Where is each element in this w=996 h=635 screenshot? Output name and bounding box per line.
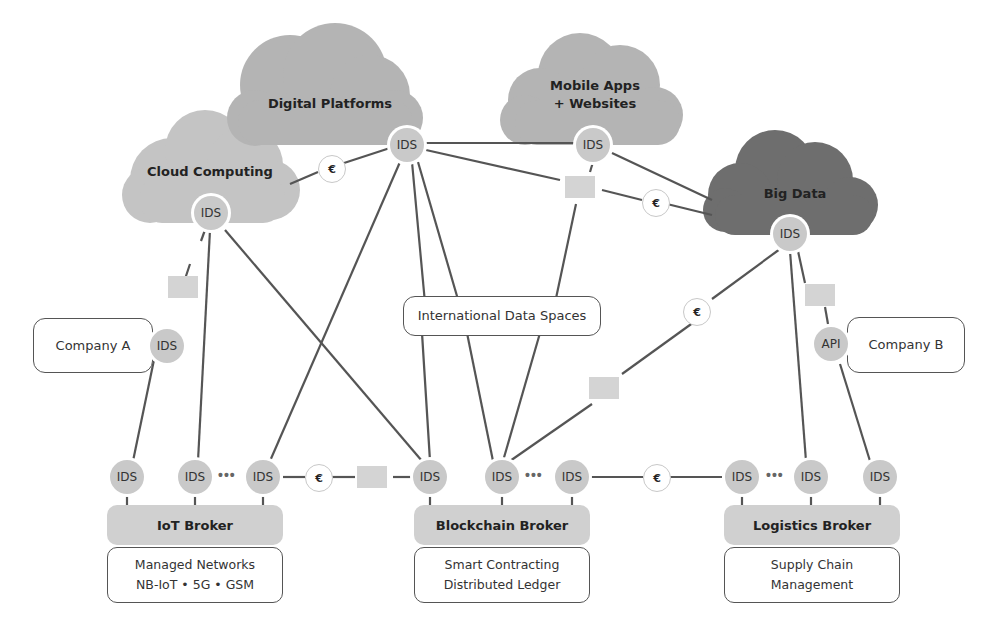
api-node-company-b: API — [814, 327, 848, 361]
iot-desc-line1: Managed Networks — [135, 555, 255, 575]
ids-node-blockchain-3: IDS — [555, 460, 589, 494]
euro-icon-blockchain-logistics: € — [643, 464, 671, 492]
company-b-box: Company B — [847, 317, 965, 373]
logistics-broker-description: Supply Chain Management — [724, 547, 900, 603]
blockchain-broker-description: Smart Contracting Distributed Ledger — [414, 547, 590, 603]
ids-node-logistics-2: IDS — [794, 460, 828, 494]
data-packet-icon — [168, 276, 198, 298]
ids-node-logistics-1: IDS — [725, 460, 759, 494]
ids-node-cloud-computing: IDS — [194, 196, 228, 230]
ellipsis-logistics: ••• — [766, 467, 784, 483]
big-data-label: Big Data — [740, 185, 850, 203]
blockchain-broker: Blockchain Broker — [414, 505, 590, 545]
mobile-apps-line1: Mobile Apps — [520, 77, 670, 95]
ids-node-iot-1: IDS — [110, 460, 144, 494]
iot-broker-description: Managed Networks NB-IoT • 5G • GSM — [107, 547, 283, 603]
logistics-desc-line1: Supply Chain — [771, 555, 853, 575]
ids-node-company-a: IDS — [150, 329, 184, 363]
data-packet-icon — [565, 176, 595, 198]
ids-node-iot-3: IDS — [246, 460, 280, 494]
blockchain-desc-line2: Distributed Ledger — [444, 575, 561, 595]
mobile-apps-label: Mobile Apps + Websites — [520, 77, 670, 113]
digital-platforms-shape — [227, 23, 423, 146]
iot-broker: IoT Broker — [107, 505, 283, 545]
ids-node-logistics-3: IDS — [863, 460, 897, 494]
data-packet-icon — [589, 377, 619, 399]
international-data-spaces-label: International Data Spaces — [403, 296, 601, 336]
ids-node-blockchain-2: IDS — [485, 460, 519, 494]
ellipsis-iot: ••• — [218, 467, 236, 483]
euro-icon-cloud-digital: € — [318, 155, 346, 183]
ellipsis-blockchain: ••• — [525, 467, 543, 483]
company-a-box: Company A — [33, 318, 153, 373]
blockchain-desc-line1: Smart Contracting — [445, 555, 560, 575]
euro-icon-bigdata-blockchain: € — [683, 298, 711, 326]
ids-node-big-data: IDS — [773, 217, 807, 251]
ids-node-mobile-apps: IDS — [576, 128, 610, 162]
ids-node-iot-2: IDS — [178, 460, 212, 494]
logistics-desc-line2: Management — [771, 575, 853, 595]
mobile-apps-line2: + Websites — [520, 95, 670, 113]
data-packet-icon — [805, 284, 835, 306]
cloud-computing-label: Cloud Computing — [140, 163, 280, 181]
logistics-broker: Logistics Broker — [724, 505, 900, 545]
data-packet-icon — [357, 466, 387, 488]
euro-icon-bigdata-mobile: € — [642, 189, 670, 217]
digital-platforms-label: Digital Platforms — [250, 95, 410, 113]
ids-node-blockchain-1: IDS — [413, 460, 447, 494]
ids-node-digital-platforms: IDS — [390, 128, 424, 162]
iot-desc-line2: NB-IoT • 5G • GSM — [136, 575, 254, 595]
euro-icon-iot-blockchain: € — [305, 464, 333, 492]
